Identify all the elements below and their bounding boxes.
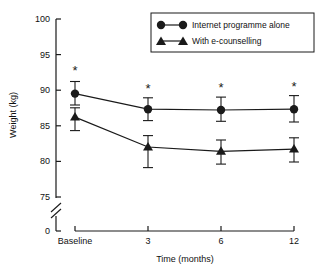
significance-markers: * * * * xyxy=(72,63,296,96)
significance-asterisk-6: * xyxy=(218,80,223,95)
data-point-triangle-12 xyxy=(289,144,299,153)
data-point-circle-6 xyxy=(217,106,225,114)
x-tick-label-6: 6 xyxy=(218,236,223,246)
series-line-circle xyxy=(75,94,294,110)
y-tick-label-85: 85 xyxy=(40,121,50,131)
error-bar-triangle-3 xyxy=(143,136,153,168)
x-tick-label-3: 3 xyxy=(145,236,150,246)
data-point-triangle-3 xyxy=(143,142,153,151)
legend-label-with-e-counselling: With e-counselling xyxy=(192,36,262,46)
y-axis-title: Weight (kg) xyxy=(8,92,18,138)
axis-break-icon xyxy=(51,203,61,218)
weight-over-time-chart: 100 95 90 85 80 75 0 Weight (kg) Baselin… xyxy=(0,0,321,275)
data-point-triangle-baseline xyxy=(70,112,80,121)
y-axis: 100 95 90 85 80 75 0 Weight (kg) xyxy=(8,14,61,236)
significance-asterisk-baseline: * xyxy=(72,63,77,78)
series-line-triangle xyxy=(75,117,294,151)
x-axis: Baseline 3 6 12 Time (months) xyxy=(58,226,299,264)
series-internet-programme-alone xyxy=(70,82,299,123)
x-axis-title: Time (months) xyxy=(156,254,214,264)
y-tick-label-95: 95 xyxy=(40,50,50,60)
significance-asterisk-3: * xyxy=(145,81,150,96)
legend-label-internet-programme-alone: Internet programme alone xyxy=(192,20,290,30)
chart-legend: Internet programme alone With e-counsell… xyxy=(151,13,314,52)
x-tick-label-12: 12 xyxy=(289,236,299,246)
x-tick-label-baseline: Baseline xyxy=(58,236,93,246)
data-point-circle-12 xyxy=(290,105,298,113)
data-point-circle-baseline xyxy=(71,89,79,97)
y-tick-label-75: 75 xyxy=(40,192,50,202)
chart-canvas: 100 95 90 85 80 75 0 Weight (kg) Baselin… xyxy=(0,0,321,275)
legend-box xyxy=(151,13,314,52)
significance-asterisk-12: * xyxy=(291,79,296,94)
data-point-circle-3 xyxy=(144,105,152,113)
y-tick-label-100: 100 xyxy=(35,14,50,24)
y-tick-label-80: 80 xyxy=(40,156,50,166)
series-with-e-counselling xyxy=(70,108,299,168)
y-tick-label-0: 0 xyxy=(45,226,50,236)
y-tick-label-90: 90 xyxy=(40,85,50,95)
